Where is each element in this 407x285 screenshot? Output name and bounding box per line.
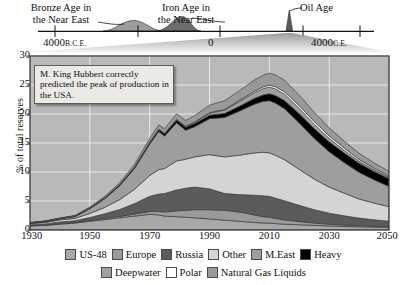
legend-item-russia[interactable]: Russia (161, 249, 203, 260)
legend-item-natural-gas-liquids[interactable]: Natural Gas Liquids (207, 267, 306, 278)
legend-label-natural-gas-liquids: Natural Gas Liquids (221, 267, 306, 278)
legend-swatch-m-east (251, 249, 262, 260)
legend-swatch-europe (112, 249, 123, 260)
legend-swatch-other (208, 249, 219, 260)
legend-label-us-48: US-48 (79, 249, 106, 260)
legend-item-europe[interactable]: Europe (112, 249, 156, 260)
legend-row-2: DeepwaterPolarNatural Gas Liquids (0, 263, 407, 281)
legend-label-deepwater: Deepwater (115, 267, 160, 278)
figure-root: Bronze Age in the Near East Iron Age in … (0, 0, 407, 285)
timeline-tick-value-left: 4000 (43, 36, 65, 48)
legend-swatch-heavy (300, 249, 311, 260)
timeline-tick-era-right: C.E. (333, 39, 347, 48)
timeline-label-iron-age: Iron Age in the Near East (146, 2, 226, 25)
timeline-tick-era-left: B.C.E. (65, 39, 86, 48)
legend-swatch-russia (161, 249, 172, 260)
legend-label-polar: Polar (180, 267, 202, 278)
timeline-tick-label-right: 4000C.E. (311, 36, 347, 48)
legend-row-1: US-48EuropeRussiaOtherM.EastHeavy (0, 245, 407, 263)
legend-label-m-east: M.East (265, 249, 295, 260)
legend-item-other[interactable]: Other (208, 249, 246, 260)
legend-swatch-deepwater (101, 267, 112, 278)
legend-label-europe: Europe (126, 249, 156, 260)
legend-item-polar[interactable]: Polar (166, 267, 202, 278)
oil-age-spike (286, 10, 293, 31)
legend-item-us-48[interactable]: US-48 (65, 249, 106, 260)
timeline-tick-value-right: 4000 (311, 36, 333, 48)
timeline-tick-label-left: 4000B.C.E. (43, 36, 86, 48)
chart-legend: US-48EuropeRussiaOtherM.EastHeavyDeepwat… (0, 245, 407, 281)
legend-label-heavy: Heavy (314, 249, 341, 260)
annotation-callout: M. King Hubbert correctly predicted the … (34, 65, 174, 104)
legend-label-other: Other (222, 249, 246, 260)
legend-swatch-polar (166, 267, 177, 278)
legend-swatch-us-48 (65, 249, 76, 260)
timeline-label-bronze-age: Bronze Age in the Near East (20, 2, 102, 25)
timeline-tick-value-mid: 0 (208, 36, 214, 48)
timeline-label-oil-age: Oil Age (300, 2, 354, 14)
timeline-tick-label-mid: 0 (208, 36, 214, 48)
legend-item-m-east[interactable]: M.East (251, 249, 295, 260)
timeline-panel: Bronze Age in the Near East Iron Age in … (0, 0, 407, 52)
legend-item-deepwater[interactable]: Deepwater (101, 267, 160, 278)
legend-label-russia: Russia (175, 249, 203, 260)
legend-swatch-natural-gas-liquids (207, 267, 218, 278)
legend-item-heavy[interactable]: Heavy (300, 249, 341, 260)
